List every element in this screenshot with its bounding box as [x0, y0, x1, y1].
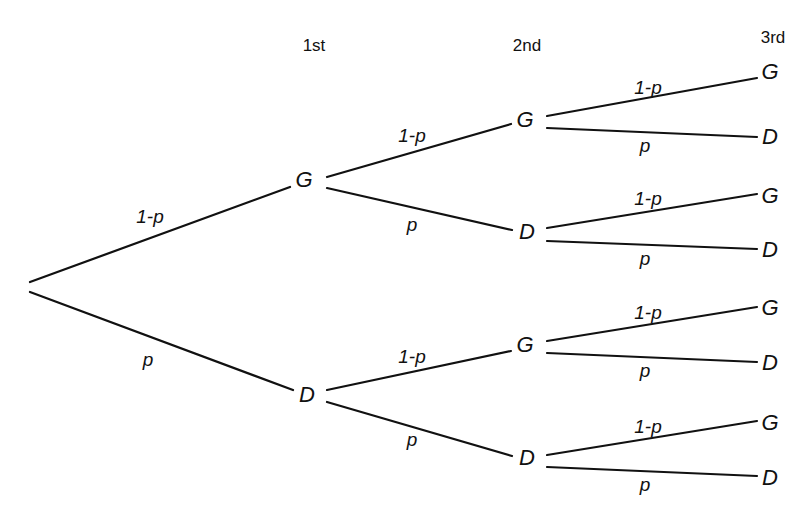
tree-node-g1: G	[295, 167, 312, 193]
tree-node-g3d: G	[761, 410, 778, 436]
branch-probability-label: p	[640, 248, 651, 270]
branch-probability-label: 1-p	[634, 416, 661, 438]
stage-header: 1st	[303, 36, 326, 56]
tree-branch	[547, 467, 757, 476]
branch-probability-label: p	[407, 214, 418, 236]
tree-branch	[327, 188, 512, 230]
tree-branches	[0, 0, 806, 520]
tree-node-d2b: D	[519, 445, 535, 471]
tree-branch	[327, 402, 512, 456]
tree-node-g3b: G	[761, 183, 778, 209]
branch-probability-label: 1-p	[136, 206, 163, 228]
tree-branch	[30, 187, 290, 282]
tree-node-g2b: G	[516, 332, 533, 358]
tree-node-d1: D	[299, 382, 315, 408]
tree-node-d3a: D	[762, 124, 778, 150]
probability-tree-diagram: 1-pp1-pp1-pp1-pp1-pp1-pp1-ppGDGDGDGDGDGD…	[0, 0, 806, 520]
tree-node-g3a: G	[761, 59, 778, 85]
tree-node-g2a: G	[516, 107, 533, 133]
branch-probability-label: 1-p	[398, 125, 425, 147]
branch-probability-label: p	[640, 360, 651, 382]
tree-branch	[30, 292, 293, 390]
tree-node-d3d: D	[762, 465, 778, 491]
tree-node-d3c: D	[762, 350, 778, 376]
branch-probability-label: 1-p	[634, 188, 661, 210]
branch-probability-label: p	[143, 349, 154, 371]
tree-branch	[547, 241, 757, 249]
tree-branch	[547, 128, 757, 137]
tree-node-d2a: D	[519, 219, 535, 245]
branch-probability-label: p	[640, 474, 651, 496]
stage-header: 3rd	[761, 28, 786, 48]
branch-probability-label: 1-p	[634, 302, 661, 324]
stage-header: 2nd	[513, 36, 541, 56]
tree-branch	[547, 353, 757, 362]
branch-probability-label: 1-p	[398, 346, 425, 368]
branch-probability-label: p	[407, 429, 418, 451]
branch-probability-label: p	[640, 135, 651, 157]
tree-node-d3b: D	[762, 237, 778, 263]
tree-node-g3c: G	[761, 295, 778, 321]
branch-probability-label: 1-p	[634, 77, 661, 99]
